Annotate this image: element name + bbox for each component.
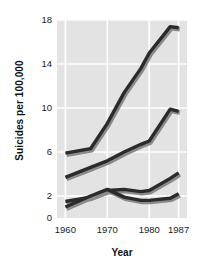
x-tick-label: 1987 [159, 224, 198, 235]
series-lines [65, 27, 179, 209]
y-tick-label: 6 [26, 146, 52, 157]
plot-area [57, 20, 187, 218]
y-tick-label: 0 [26, 212, 52, 223]
x-axis-title: Year [57, 247, 187, 258]
x-tick-label: 1960 [45, 224, 85, 235]
series-line [65, 27, 178, 154]
y-tick-label: 18 [26, 14, 52, 25]
plot-svg [57, 20, 187, 218]
series-line [65, 109, 178, 177]
y-tick-label: 2 [26, 190, 52, 201]
y-tick-label: 10 [26, 102, 52, 113]
x-tick-label: 1970 [87, 224, 127, 235]
y-tick-label: 14 [26, 58, 52, 69]
chart-figure: Suicides per 100,000 026101418 196019701… [0, 0, 198, 268]
